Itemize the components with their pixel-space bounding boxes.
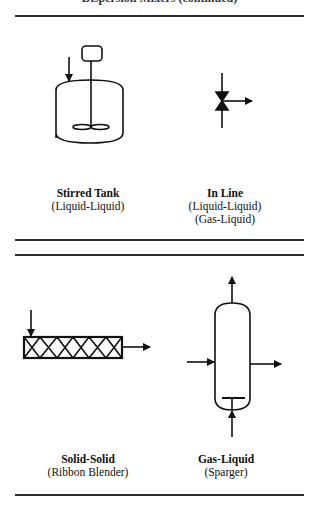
caption-title: Solid-Solid <box>18 453 158 466</box>
caption-subtitle: (Gas-Liquid) <box>155 213 295 226</box>
caption-title: In Line <box>155 187 295 200</box>
solid-solid-caption: Solid-Solid (Ribbon Blender) <box>18 453 158 479</box>
section-divider-upper <box>15 239 304 241</box>
ribbon-blender-icon <box>24 310 150 358</box>
caption-title: Stirred Tank <box>18 187 158 200</box>
in-line-mixer-icon <box>216 73 252 128</box>
bottom-rule <box>15 494 304 496</box>
sparger-icon <box>187 277 281 437</box>
caption-subtitle: (Liquid-Liquid) <box>18 200 158 213</box>
caption-subtitle: (Liquid-Liquid) <box>155 200 295 213</box>
stirred-tank-caption: Stirred Tank (Liquid-Liquid) <box>18 187 158 213</box>
stirred-tank-icon <box>56 46 123 143</box>
caption-title: Gas-Liquid <box>156 453 296 466</box>
gas-liquid-caption: Gas-Liquid (Sparger) <box>156 453 296 479</box>
mixer-diagrams <box>0 0 319 516</box>
caption-subtitle: (Ribbon Blender) <box>18 466 158 479</box>
section-divider-lower <box>15 254 304 256</box>
in-line-caption: In Line (Liquid-Liquid) (Gas-Liquid) <box>155 187 295 226</box>
caption-subtitle: (Sparger) <box>156 466 296 479</box>
